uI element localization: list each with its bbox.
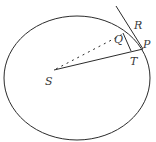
orbit-ellipse (4, 16, 150, 140)
segment-sq-dashed (56, 34, 123, 69)
label-p: P (142, 38, 151, 51)
orbit-diagram: S Q R P T (0, 0, 156, 142)
label-s: S (45, 75, 53, 88)
label-t: T (130, 55, 139, 68)
label-q: Q (114, 33, 123, 46)
label-r: R (133, 19, 142, 32)
